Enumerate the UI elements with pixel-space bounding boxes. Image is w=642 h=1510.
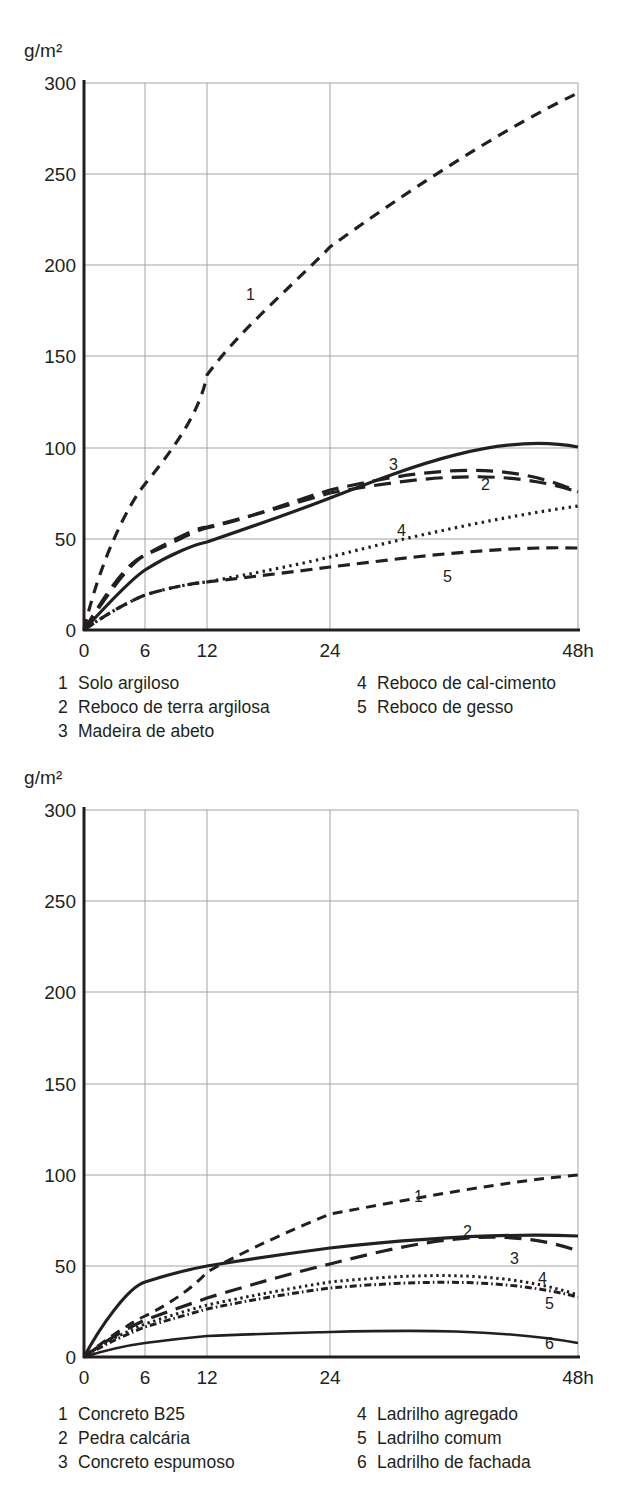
y-tick-labels-bottom: 300 250 200 150 100 50 0 <box>44 800 76 1368</box>
curve-2-line <box>84 477 578 630</box>
curve-label-1: 1 <box>414 1188 423 1205</box>
legend-item: 3 Concreto espumoso <box>58 1451 235 1475</box>
legend-item: 1 Solo argiloso <box>58 672 270 696</box>
curve-label-3: 3 <box>510 1250 519 1267</box>
legend-number: 2 <box>58 1427 78 1451</box>
legend-label: Ladrilho de fachada <box>377 1451 531 1475</box>
x-tick-12: 12 <box>196 1367 217 1388</box>
curve-label-6: 6 <box>545 1335 554 1352</box>
legend-label: Reboco de terra argilosa <box>78 696 270 720</box>
curve-label-3: 3 <box>389 456 398 473</box>
curve-5-ladrilho-comum <box>84 1282 578 1357</box>
curves-top-main <box>84 477 578 630</box>
y-tick-50: 50 <box>55 529 76 550</box>
y-tick-250: 250 <box>44 164 76 185</box>
chart-top: g/m² 300 <box>0 0 642 755</box>
grid-horizontal-bottom <box>84 810 578 1266</box>
curve-label-1: 1 <box>246 286 255 303</box>
legend-label: Reboco de cal-cimento <box>377 672 556 696</box>
y-tick-labels-top: 300 250 200 150 100 50 0 <box>44 73 76 641</box>
y-tick-50: 50 <box>55 1256 76 1277</box>
legend-item: 4 Reboco de cal-cimento <box>357 672 556 696</box>
chart-top-plot: 300 250 200 150 100 50 0 0 6 12 24 48h <box>0 0 642 660</box>
x-tick-48: 48h <box>562 1367 594 1388</box>
legend-label: Reboco de gesso <box>377 696 513 720</box>
curve-label-4: 4 <box>538 1270 547 1287</box>
curve-label-2: 2 <box>481 476 490 493</box>
y-tick-300: 300 <box>44 73 76 94</box>
x-tick-0: 0 <box>79 1367 90 1388</box>
curve-2-pedra-calcaria <box>84 1235 578 1357</box>
curve-3-concreto-espumoso <box>84 1237 578 1357</box>
curve-labels-top: 1 3 2 4 5 <box>246 286 490 585</box>
legend-number: 2 <box>58 696 78 720</box>
legend-item: 2 Pedra calcária <box>58 1427 235 1451</box>
legend-item: 3 Madeira de abeto <box>58 720 270 744</box>
x-tick-0: 0 <box>79 640 90 660</box>
chart-bottom: g/m² 300 250 200 15 <box>0 755 642 1510</box>
x-tick-24: 24 <box>319 640 341 660</box>
y-tick-100: 100 <box>44 1165 76 1186</box>
legend-bottom-right-column: 4 Ladrilho agregado 5 Ladrilho comum 6 L… <box>357 1403 531 1474</box>
grid-vertical-bottom <box>145 810 578 1357</box>
legend-label: Concreto B25 <box>78 1403 185 1427</box>
legend-number: 1 <box>58 1403 78 1427</box>
y-tick-150: 150 <box>44 346 76 367</box>
x-tick-48: 48h <box>562 640 594 660</box>
chart-bottom-plot: 300 250 200 150 100 50 0 0 6 12 24 48h <box>0 782 642 1442</box>
legend-number: 5 <box>357 1427 377 1451</box>
legend-label: Ladrilho agregado <box>377 1403 518 1427</box>
y-tick-200: 200 <box>44 982 76 1003</box>
legend-number: 4 <box>357 1403 377 1427</box>
curve-label-5: 5 <box>545 1295 554 1312</box>
curve-5-reboco-de-gesso <box>84 548 578 630</box>
y-tick-100: 100 <box>44 438 76 459</box>
x-tick-12: 12 <box>196 640 217 660</box>
legend-label: Solo argiloso <box>78 672 179 696</box>
y-tick-250: 250 <box>44 891 76 912</box>
figure-page: g/m² 300 <box>0 0 642 1510</box>
x-tick-labels-bottom: 0 6 12 24 48h <box>79 1367 594 1388</box>
legend-number: 3 <box>58 720 78 744</box>
legend-label: Concreto espumoso <box>78 1451 235 1475</box>
curve-label-2: 2 <box>463 1223 472 1240</box>
legend-label: Ladrilho comum <box>377 1427 502 1451</box>
legend-item: 4 Ladrilho agregado <box>357 1403 531 1427</box>
legend-number: 1 <box>58 672 78 696</box>
legend-item: 5 Reboco de gesso <box>357 696 556 720</box>
x-tick-6: 6 <box>140 1367 151 1388</box>
y-tick-0: 0 <box>65 1347 76 1368</box>
x-tick-labels-top: 0 6 12 24 48h <box>79 640 594 660</box>
curve-label-4: 4 <box>397 522 406 539</box>
curve-labels-bottom: 1 2 3 4 5 6 <box>414 1188 554 1352</box>
legend-item: 6 Ladrilho de fachada <box>357 1451 531 1475</box>
legend-label: Madeira de abeto <box>78 720 214 744</box>
x-tick-24: 24 <box>319 1367 341 1388</box>
legend-number: 5 <box>357 696 377 720</box>
legend-item: 1 Concreto B25 <box>58 1403 235 1427</box>
legend-top-left-column: 1 Solo argiloso 2 Reboco de terra argilo… <box>58 672 270 743</box>
legend-top-right-column: 4 Reboco de cal-cimento 5 Reboco de gess… <box>357 672 556 720</box>
curve-6-ladrilho-de-fachada <box>84 1331 578 1357</box>
legend-number: 6 <box>357 1451 377 1475</box>
legend-label: Pedra calcária <box>78 1427 190 1451</box>
legend-number: 3 <box>58 1451 78 1475</box>
y-tick-200: 200 <box>44 255 76 276</box>
legend-item: 2 Reboco de terra argilosa <box>58 696 270 720</box>
y-tick-300: 300 <box>44 800 76 821</box>
y-tick-0: 0 <box>65 620 76 641</box>
legend-number: 4 <box>357 672 377 696</box>
y-tick-150: 150 <box>44 1074 76 1095</box>
curve-label-5: 5 <box>443 568 452 585</box>
legend-bottom-left-column: 1 Concreto B25 2 Pedra calcária 3 Concre… <box>58 1403 235 1474</box>
x-tick-6: 6 <box>140 640 151 660</box>
legend-item: 5 Ladrilho comum <box>357 1427 531 1451</box>
